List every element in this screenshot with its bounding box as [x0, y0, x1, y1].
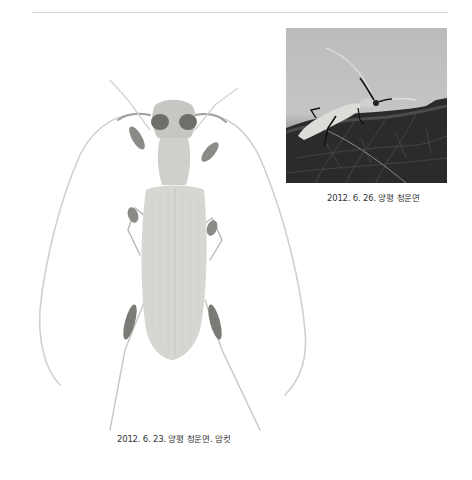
beetle-specimen-image — [0, 60, 340, 440]
specimen-caption: 2012. 6. 23. 양평 청운면. 암컷 — [117, 432, 231, 444]
top-divider — [32, 12, 448, 13]
field-photo-caption: 2012. 6. 26. 양평 청운면 — [327, 191, 420, 203]
